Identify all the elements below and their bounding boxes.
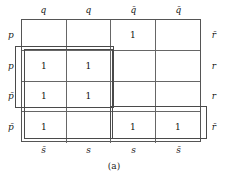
row-label-right-3: r	[202, 81, 226, 111]
column-header-top-1: q	[21, 2, 66, 17]
kmap-cell-r1c2	[67, 20, 112, 51]
kmap-cell-r4c2	[67, 112, 112, 143]
row-label-left-4: p̄	[1, 111, 21, 142]
kmap-cell-r3c3	[111, 82, 156, 112]
kmap-cell-r4c3: 1	[111, 112, 156, 143]
row-label-left-3: p̄	[1, 81, 21, 111]
kmap-cell-r1c1	[22, 20, 67, 51]
column-header-top-4: q̄	[156, 2, 201, 17]
column-header-top-3: q̄	[111, 2, 156, 17]
kmap-cell-r3c1: 1	[22, 82, 67, 112]
kmap-cell-r2c4	[156, 51, 201, 82]
figure-caption: (a)	[0, 161, 228, 171]
kmap-column-labels-bottom: s̄ s s s̄	[21, 143, 201, 157]
row-label-left-2: p	[1, 50, 21, 81]
kmap-cell-r3c4	[156, 82, 201, 112]
kmap-cell-r2c2: 1	[67, 51, 112, 82]
column-label-bottom-1: s̄	[21, 143, 66, 157]
kmap-cell-r4c4: 1	[156, 112, 201, 143]
column-header-top-2: q	[66, 2, 111, 17]
kmap-cell-r3c2: 1	[67, 82, 112, 112]
row-label-right-2: r	[202, 50, 226, 81]
kmap-cell-r1c4	[156, 20, 201, 51]
kmap-figure: q q q̄ q̄ p p p̄ p̄ r̄ r r r̄ 1 1 1 1 1 …	[0, 0, 228, 181]
kmap-cell-r4c1: 1	[22, 112, 67, 143]
kmap-column-headers-top: q q q̄ q̄	[21, 2, 201, 17]
kmap-cell-r1c3: 1	[111, 20, 156, 51]
column-label-bottom-4: s̄	[156, 143, 201, 157]
column-label-bottom-3: s	[111, 143, 156, 157]
kmap-grid: 1 1 1 1 1 1 1 1	[21, 19, 201, 142]
column-label-bottom-2: s	[66, 143, 111, 157]
row-label-left-1: p	[1, 19, 21, 50]
kmap-row-labels-right: r̄ r r r̄	[202, 19, 226, 142]
row-label-right-1: r̄	[202, 19, 226, 50]
kmap-row-labels-left: p p p̄ p̄	[1, 19, 21, 142]
kmap-cell-r2c1: 1	[22, 51, 67, 82]
row-label-right-4: r̄	[202, 111, 226, 142]
kmap-cell-r2c3	[111, 51, 156, 82]
